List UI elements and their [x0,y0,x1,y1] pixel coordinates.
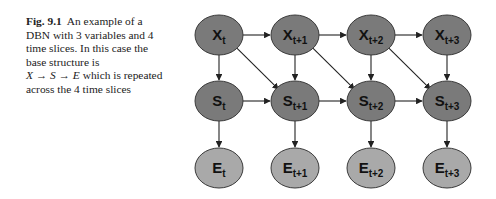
edge-x-s-next [312,47,355,89]
node-x-t: Xt [195,15,243,55]
node-e-tplus1: Et+1 [271,148,319,188]
edge-x-s-next [236,47,279,89]
node-s-tplus2: St+2 [347,81,395,121]
node-s-tplus3: St+3 [423,81,471,121]
edge-x-s-next [388,47,431,89]
node-x-tplus1: Xt+1 [271,15,319,55]
node-e-tplus2: Et+2 [347,148,395,188]
node-x-tplus2: Xt+2 [347,15,395,55]
node-x-tplus3: Xt+3 [423,15,471,55]
node-s-t: St [195,81,243,121]
node-e-tplus3: Et+3 [423,148,471,188]
node-e-t: Et [195,148,243,188]
dbn-diagram: XtXt+1Xt+2Xt+3StSt+1St+2St+3EtEt+1Et+2Et… [0,0,496,199]
node-s-tplus1: St+1 [271,81,319,121]
